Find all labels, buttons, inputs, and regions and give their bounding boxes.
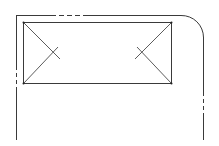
corner-dot-tl xyxy=(23,22,25,24)
outer-rounded-corner xyxy=(181,15,204,37)
left-diagonal-up xyxy=(24,47,59,84)
corner-dot-br xyxy=(171,83,173,85)
corner-dot-bl xyxy=(23,83,25,85)
right-x-cross-icon xyxy=(135,23,172,84)
outer-outline xyxy=(16,15,204,140)
right-diagonal-down xyxy=(135,23,172,60)
corner-dot-tr xyxy=(171,22,173,24)
left-diagonal-down xyxy=(24,23,61,60)
technical-drawing xyxy=(0,0,219,146)
inner-panel xyxy=(24,23,172,84)
right-diagonal-up xyxy=(137,47,172,84)
left-x-cross-icon xyxy=(24,23,61,84)
